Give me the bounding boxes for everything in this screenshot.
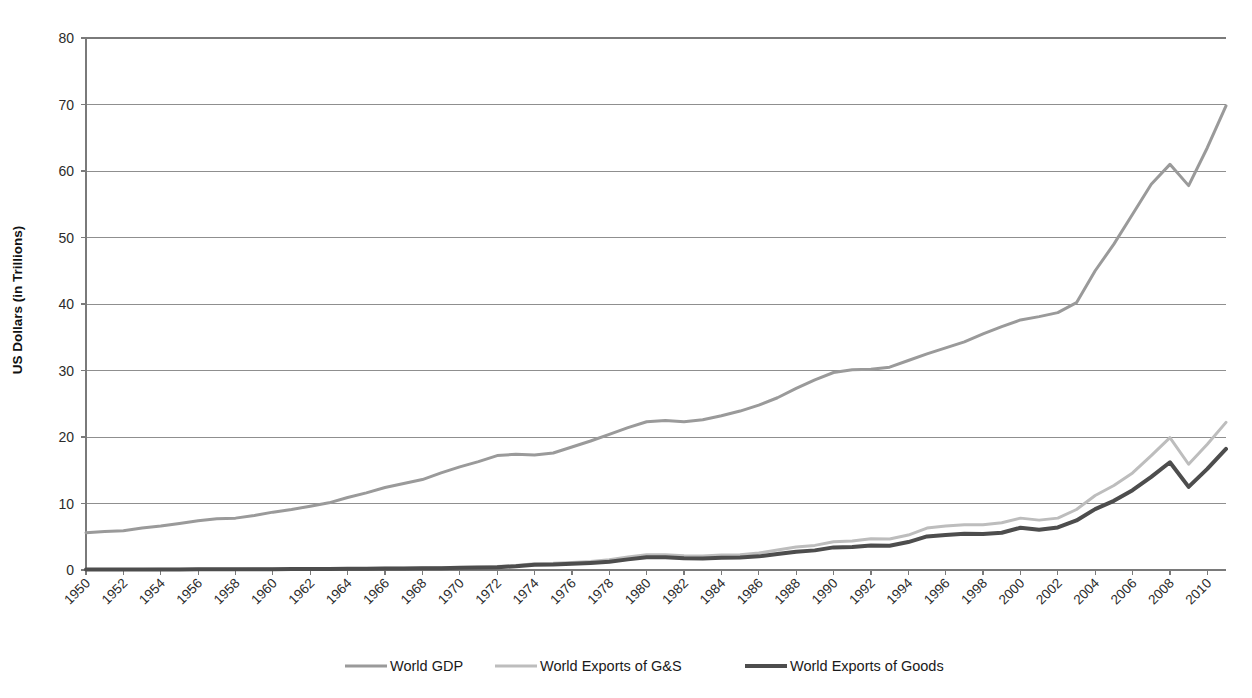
x-tick-label: 1956 [173, 576, 205, 608]
series-lines [86, 106, 1226, 570]
x-tick-label: 2006 [1108, 576, 1140, 608]
legend-label-3: World Exports of Goods [790, 658, 944, 674]
x-axis-tick-labels: 1950195219541956195819601962196419661968… [61, 570, 1214, 607]
gridlines [81, 38, 1226, 570]
y-tick-label: 0 [66, 562, 74, 578]
x-tick-label: 1970 [435, 576, 467, 608]
x-tick-label: 1966 [360, 576, 392, 608]
x-tick-label: 1996 [921, 576, 953, 608]
x-tick-label: 2000 [996, 576, 1028, 608]
x-tick-label: 1998 [958, 576, 990, 608]
x-tick-label: 2010 [1183, 576, 1215, 608]
y-tick-label: 20 [58, 429, 74, 445]
y-tick-label: 60 [58, 163, 74, 179]
x-tick-label: 2008 [1145, 576, 1177, 608]
legend-label-2: World Exports of G&S [540, 658, 682, 674]
x-tick-label: 1962 [286, 576, 318, 608]
series-line-3 [86, 449, 1226, 570]
y-tick-label: 10 [58, 496, 74, 512]
x-tick-label: 1980 [622, 576, 654, 608]
y-tick-label: 40 [58, 296, 74, 312]
x-tick-label: 1982 [659, 576, 691, 608]
x-tick-label: 1952 [99, 576, 131, 608]
x-tick-label: 1958 [211, 576, 243, 608]
legend-label-1: World GDP [390, 658, 463, 674]
line-chart: 01020304050607080 1950195219541956195819… [0, 0, 1252, 698]
x-tick-label: 1978 [585, 576, 617, 608]
y-tick-label: 30 [58, 363, 74, 379]
chart-container: 01020304050607080 1950195219541956195819… [0, 0, 1252, 698]
x-tick-label: 1988 [771, 576, 803, 608]
series-line-1 [86, 106, 1226, 533]
chart-legend: World GDPWorld Exports of G&SWorld Expor… [345, 658, 944, 674]
x-tick-label: 1974 [510, 575, 542, 607]
x-tick-label: 1950 [61, 576, 93, 608]
x-tick-label: 1976 [547, 576, 579, 608]
y-tick-label: 70 [58, 97, 74, 113]
x-tick-label: 1972 [472, 576, 504, 608]
x-tick-label: 1994 [884, 575, 916, 607]
x-tick-label: 1986 [734, 576, 766, 608]
x-tick-label: 2004 [1070, 575, 1102, 607]
x-tick-label: 1954 [136, 575, 168, 607]
y-axis-title: US Dollars (in Trillions) [10, 226, 25, 375]
x-tick-label: 1984 [697, 575, 729, 607]
x-tick-label: 1968 [398, 576, 430, 608]
y-tick-label: 80 [58, 30, 74, 46]
y-axis-tick-labels: 01020304050607080 [58, 30, 74, 578]
x-tick-label: 1992 [846, 576, 878, 608]
y-tick-label: 50 [58, 230, 74, 246]
series-line-2 [86, 422, 1226, 569]
x-tick-label: 1964 [323, 575, 355, 607]
x-tick-label: 2002 [1033, 576, 1065, 608]
x-tick-label: 1960 [248, 576, 280, 608]
x-tick-label: 1990 [809, 576, 841, 608]
